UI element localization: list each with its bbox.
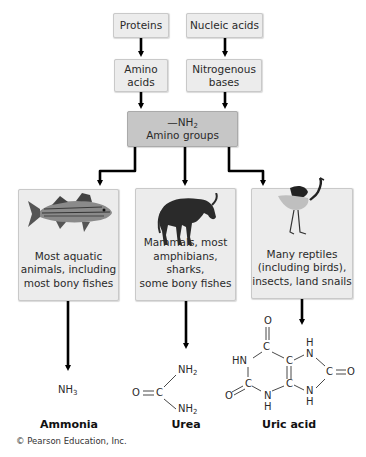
- uric-n-bottom-right: N: [306, 385, 313, 396]
- urea-o: O: [132, 387, 140, 398]
- uric-c-ring-top: C: [286, 355, 293, 366]
- uric-c-left: C: [245, 378, 252, 389]
- uric-hn: HN: [232, 355, 247, 366]
- copyright: © Pearson Education, Inc.: [16, 436, 127, 446]
- urea-c: C: [156, 387, 163, 398]
- uric-h-bottom-right: H: [306, 396, 314, 407]
- urea-label: Urea: [171, 418, 200, 431]
- uric-o-top: O: [264, 315, 272, 326]
- uric-c-top: C: [263, 341, 270, 352]
- uric-c-right: C: [326, 366, 333, 377]
- uric-o-left: O: [225, 390, 233, 401]
- uric-n-top-right: N: [306, 348, 313, 359]
- uric-acid-label: Uric acid: [262, 418, 316, 431]
- ammonia-label: Ammonia: [40, 418, 98, 431]
- urea-nh2-top: NH2: [178, 364, 197, 375]
- uric-c-ring-bottom: C: [286, 378, 293, 389]
- uric-h-top-right: H: [306, 337, 314, 348]
- uric-n-bottom: N: [264, 390, 271, 401]
- urea-nh2-bottom: NH2: [178, 403, 197, 414]
- uric-o-right: O: [347, 366, 355, 377]
- uric-h-bottom: H: [264, 401, 272, 412]
